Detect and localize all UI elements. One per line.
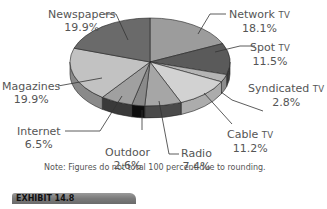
label-spot-tv: Spot TV 11.5% (250, 41, 290, 68)
label-cable-tv: Cable TV 11.2% (227, 128, 273, 155)
label-network-tv: Network TV 18.1% (229, 8, 290, 35)
label-newspapers: Newspapers 19.9% (48, 8, 115, 34)
label-syndicated-tv: Syndicated TV 2.8% (248, 82, 324, 109)
exhibit-label: EXHIBIT 14.8 (12, 193, 136, 204)
label-magazines: Magazines 19.9% (2, 80, 60, 106)
chart-note: Note: Figures do not total 100 percent d… (44, 163, 266, 172)
pie-side-outdoor (132, 105, 145, 118)
label-internet: Internet 6.5% (17, 125, 61, 151)
